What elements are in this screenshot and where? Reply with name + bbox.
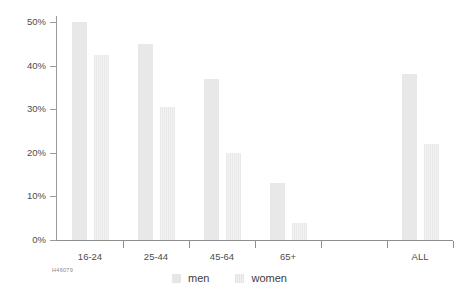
bar-men-ALL[interactable] bbox=[402, 74, 417, 240]
y-axis-tick-label: 50% bbox=[4, 16, 46, 27]
x-axis-tick bbox=[387, 241, 388, 248]
x-axis-tick bbox=[453, 241, 454, 248]
y-axis-tick-label: 40% bbox=[4, 60, 46, 71]
legend-swatch-men-icon bbox=[172, 274, 181, 283]
x-axis-category-label: 16-24 bbox=[57, 251, 123, 262]
legend-label-men: men bbox=[188, 272, 209, 284]
legend-item-men[interactable]: men bbox=[172, 272, 209, 284]
x-axis-tick bbox=[189, 241, 190, 248]
bar-women-65+[interactable] bbox=[292, 223, 307, 240]
chart-legend: men women bbox=[0, 272, 459, 284]
bar-women-16-24[interactable] bbox=[94, 55, 109, 240]
y-axis-tick-label: 20% bbox=[4, 147, 46, 158]
legend-swatch-women-icon bbox=[235, 274, 244, 283]
y-axis-tick-label: 0% bbox=[4, 234, 46, 245]
y-axis-tick-label: 10% bbox=[4, 190, 46, 201]
x-axis-category-label: 65+ bbox=[255, 251, 321, 262]
bar-men-25-44[interactable] bbox=[138, 44, 153, 240]
y-axis-tick bbox=[50, 196, 57, 197]
bar-men-45-64[interactable] bbox=[204, 79, 219, 240]
y-axis-tick bbox=[50, 153, 57, 154]
bar-men-65+[interactable] bbox=[270, 183, 285, 240]
bar-men-16-24[interactable] bbox=[72, 22, 87, 240]
bar-chart: 0%10%20%30%40%50% 16-2425-4445-6465+ALL … bbox=[0, 0, 459, 297]
x-axis-tick bbox=[123, 241, 124, 248]
bar-women-45-64[interactable] bbox=[226, 153, 241, 240]
y-axis-tick bbox=[50, 240, 57, 241]
x-axis-tick bbox=[321, 241, 322, 248]
y-axis-tick bbox=[50, 22, 57, 23]
y-axis-tick bbox=[50, 109, 57, 110]
y-axis-tick-label: 30% bbox=[4, 103, 46, 114]
bar-women-25-44[interactable] bbox=[160, 107, 175, 240]
bar-women-ALL[interactable] bbox=[424, 144, 439, 240]
x-axis-category-label: 25-44 bbox=[123, 251, 189, 262]
x-axis-tick bbox=[255, 241, 256, 248]
legend-item-women[interactable]: women bbox=[235, 272, 286, 284]
y-axis-tick bbox=[50, 66, 57, 67]
plot-area bbox=[57, 14, 453, 240]
legend-label-women: women bbox=[251, 272, 286, 284]
x-axis-category-label: 45-64 bbox=[189, 251, 255, 262]
x-axis-category-label: ALL bbox=[387, 251, 453, 262]
